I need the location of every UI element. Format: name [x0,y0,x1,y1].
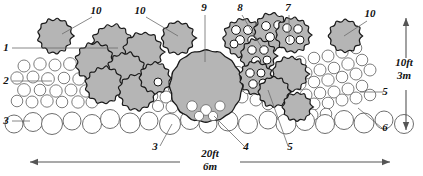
cobble-circle [120,113,140,133]
clast-inner-circle [154,78,162,86]
callout-label-c11: 6 [382,121,388,133]
cobble-circle [259,111,277,129]
gravel-circle [364,89,376,101]
diagram-canvas: 1010987101235634520ft6m10ft3m [0,0,423,176]
gravel-circle [350,92,362,104]
gravel-circle [18,60,30,72]
gravel-circle [58,72,70,84]
gravel-circle [336,71,348,83]
gravel-circle [322,50,334,62]
gravel-circle [356,80,368,92]
clast-inner-circle [263,56,271,64]
cobble-circle [335,111,354,130]
gravel-circle [34,58,46,70]
gravel-circle [152,100,163,111]
callout-label-c7: 1 [3,41,9,53]
gravel-circle [49,59,61,71]
boulder-base-circle [187,101,197,111]
cross-section-svg: 1010987101235634520ft6m10ft3m [0,0,423,176]
gravel-circle [50,85,62,97]
cobble-circle [101,110,120,129]
gravel-circle [18,84,31,97]
gravel-circle [11,95,23,107]
gravel-circle [308,52,320,64]
callout-label-c4: 8 [237,1,243,13]
v-dim-label-m: 3m [396,69,412,81]
gravel-circle [350,68,362,80]
h-dim-label-ft: 20ft [200,147,220,159]
clast-inner-circle [283,24,291,32]
boulder-base-circle [208,111,217,120]
clast-inner-circle [232,26,241,35]
gravel-circle [41,95,53,107]
clast-inner-circle [266,33,275,42]
callout-label-c14: 5 [287,140,293,152]
gravel-circle [26,96,38,108]
gravel-circle [11,72,23,84]
h-dim-label-m: 6m [203,160,218,172]
gravel-circle [64,58,77,71]
callout-label-c10: 5 [382,85,388,97]
cobble-circle [160,114,181,135]
clast-inner-circle [249,80,257,88]
gravel-circle [56,96,68,108]
gravel-circle [314,64,326,76]
clast-inner-circle [230,40,238,48]
cobble-circle [316,115,335,134]
callout-label-c2: 10 [135,4,147,16]
clast-inner-circle [248,46,256,54]
gravel-circle [322,74,334,86]
callout-label-c5: 7 [285,1,291,13]
gravel-circle [356,54,368,66]
gravel-circle [308,76,320,88]
clast-inner-circle [246,69,254,77]
clast-inner-circle [257,69,265,77]
cobble-circle [42,114,63,135]
callout-label-c3: 9 [201,1,207,13]
boulder-shape [169,50,243,123]
cobble-circle [239,115,258,134]
gravel-circle [322,97,334,109]
gravel-circle [328,62,340,74]
gravel-circle [72,96,84,108]
cobble-circle [83,115,102,134]
clast-inner-circle [294,25,302,33]
cobble-circle [140,112,158,130]
clast-inner-circle [262,22,271,31]
clast-inner-circle [296,36,304,44]
callout-label-c12: 3 [151,140,158,152]
callout-label-c8: 2 [2,74,9,86]
gravel-circle [336,94,348,106]
gravel-circle [342,58,354,70]
callout-label-c9: 3 [2,114,9,126]
callout-label-c1: 10 [91,4,103,16]
gravel-circle [364,64,376,76]
boulder-base-circle [194,111,203,120]
callout-label-c6: 10 [365,7,377,19]
cobble-circle [63,112,81,130]
clast-inner-circle [286,36,295,45]
v-dim-label-ft: 10ft [395,56,414,68]
callout-label-c13: 4 [242,140,249,152]
boulder-base-circle [215,101,225,111]
gravel-circle [34,84,46,96]
cobble-circle [354,113,374,133]
gravel-circle [65,84,77,96]
gravel-circle [314,87,326,99]
cobble-circle [24,113,43,132]
gravel-circle [42,73,55,86]
